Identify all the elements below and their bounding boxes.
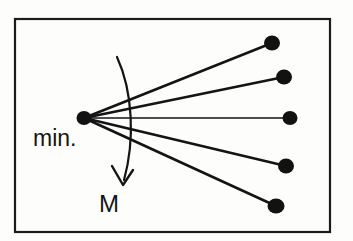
endpoint-dot-group [264,36,298,214]
moment-rotation-diagram: min. M [0,0,353,241]
ray-group [84,43,290,206]
moment-label: M [99,190,119,217]
ray-line-1 [84,43,272,118]
moment-arrowhead-icon [112,166,133,185]
endpoint-dot-2 [276,70,292,85]
endpoint-dot-1 [264,36,280,51]
figure-canvas: min. M [0,0,353,241]
endpoint-dot-3 [283,111,298,125]
endpoint-dot-4 [278,159,294,174]
endpoint-dot-5 [268,199,285,214]
vertex-dot [77,111,92,125]
ray-line-2 [84,77,284,118]
minimum-label: min. [33,125,76,151]
ray-line-4 [84,118,286,166]
